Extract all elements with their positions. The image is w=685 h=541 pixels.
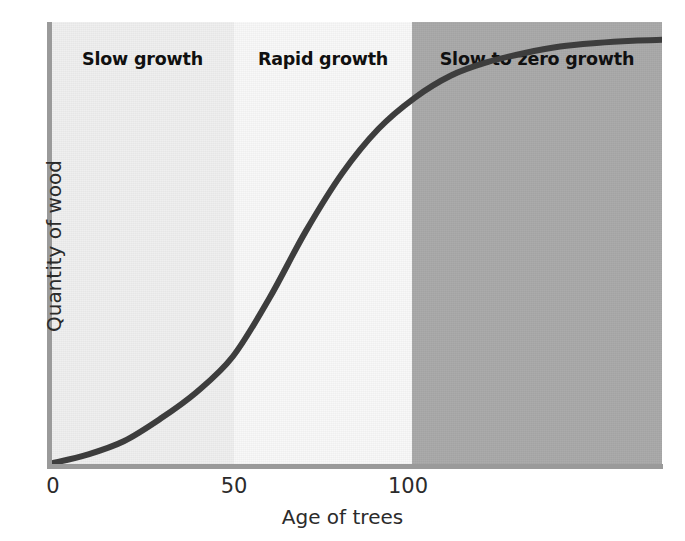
growth-curve-figure: Slow growth Rapid growth Slow to zero gr…	[0, 0, 685, 541]
x-tick-label-50: 50	[204, 474, 264, 498]
x-axis-line	[47, 464, 663, 469]
growth-curve-path	[51, 40, 662, 464]
x-axis-title: Age of trees	[0, 505, 685, 529]
plot-area: Slow growth Rapid growth Slow to zero gr…	[51, 22, 662, 468]
x-tick-label-0: 0	[23, 474, 83, 498]
x-tick-label-100: 100	[378, 474, 438, 498]
y-axis-title: Quantity of wood	[42, 66, 66, 426]
growth-curve-svg	[51, 22, 662, 468]
